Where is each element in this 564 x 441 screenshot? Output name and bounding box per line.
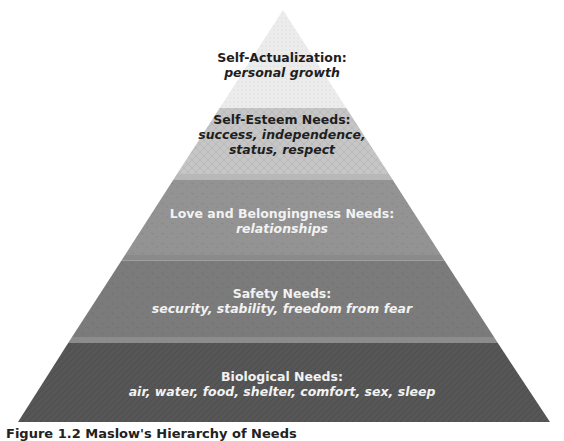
level-title: Safety Needs:	[0, 286, 564, 301]
level-subtitle: relationships	[0, 221, 564, 236]
level-safety-stripe	[69, 337, 498, 343]
level-subtitle: personal growth	[0, 65, 564, 80]
label-love-belonging: Love and Belongingness Needs: relationsh…	[0, 206, 564, 236]
level-love-belonging-stripe	[122, 255, 445, 261]
label-safety: Safety Needs: security, stability, freed…	[0, 286, 564, 316]
level-subtitle: security, stability, freedom from fear	[0, 301, 564, 316]
level-title: Self-Esteem Needs:	[0, 112, 564, 127]
level-subtitle: success, independence,	[0, 127, 564, 142]
level-title: Biological Needs:	[0, 369, 564, 384]
level-self-esteem-stripe	[174, 174, 393, 180]
label-self-actualization: Self-Actualization: personal growth	[0, 50, 564, 80]
level-title: Love and Belongingness Needs:	[0, 206, 564, 221]
level-subtitle: air, water, food, shelter, comfort, sex,…	[0, 384, 564, 399]
level-subtitle-2: status, respect	[0, 142, 564, 157]
level-title: Self-Actualization:	[0, 50, 564, 65]
label-biological: Biological Needs: air, water, food, shel…	[0, 369, 564, 399]
figure-caption: Figure 1.2 Maslow's Hierarchy of Needs	[6, 426, 297, 441]
label-self-esteem: Self-Esteem Needs: success, independence…	[0, 112, 564, 157]
